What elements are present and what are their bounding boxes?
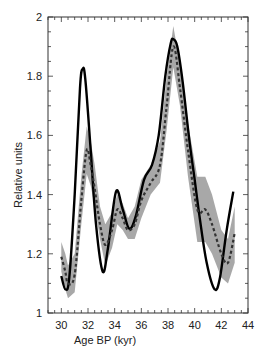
y-axis-label: Relative units	[12, 141, 24, 208]
x-tick-label: 36	[135, 319, 147, 331]
x-tick-label: 44	[242, 319, 254, 331]
y-axis-ticks: 11.21.41.61.82	[27, 11, 248, 319]
uncertainty-band	[61, 26, 234, 298]
uncertainty-band-layer	[61, 26, 234, 298]
x-tick-label: 34	[109, 319, 121, 331]
x-tick-label: 38	[162, 319, 174, 331]
x-tick-label: 30	[55, 319, 67, 331]
x-tick-label: 42	[215, 319, 227, 331]
y-tick-label: 1.8	[27, 70, 42, 82]
y-tick-label: 2	[36, 11, 42, 23]
y-tick-label: 1	[36, 307, 42, 319]
x-tick-label: 40	[189, 319, 201, 331]
y-tick-label: 1.2	[27, 248, 42, 260]
y-tick-label: 1.4	[27, 189, 42, 201]
chart: 3032343638404244 11.21.41.61.82 Age BP (…	[0, 0, 264, 352]
y-tick-label: 1.6	[27, 129, 42, 141]
x-tick-label: 32	[82, 319, 94, 331]
x-axis-label: Age BP (kyr)	[74, 334, 136, 346]
